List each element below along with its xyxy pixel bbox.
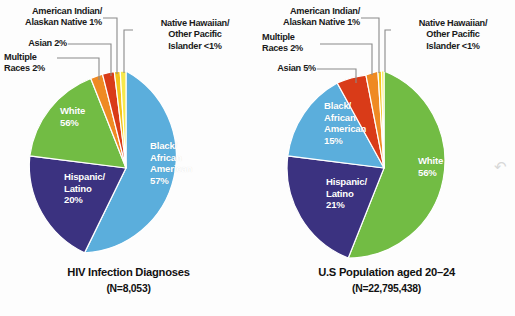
- callout-line-2: Races 2%: [262, 43, 320, 54]
- callout-american-indian-alaskan-native: American Indian/ Alaskan Native 1%: [0, 6, 102, 29]
- wedge-label-hispanic-latino: Hispanic/ Latino 20%: [64, 171, 105, 206]
- chart-title-us-population: U.S Population aged 20–24: [258, 266, 515, 278]
- callout-line-1: Asian 2%: [0, 38, 67, 49]
- callout-line-1: American Indian/: [0, 6, 102, 17]
- wedge-label-black-african-american: Black/ African American 15%: [324, 100, 366, 146]
- callout-line-1: Asian 5%: [258, 63, 316, 74]
- scan-artifact-mark: ↶: [494, 158, 507, 176]
- callout-line-1: Native Hawaiian/: [394, 18, 512, 29]
- chart-subtitle-us-population: (N=22,795,438): [258, 283, 515, 294]
- wedge-label-white: White 56%: [418, 155, 443, 178]
- callout-american-indian-alaskan-native: American Indian/ Alaskan Native 1%: [258, 6, 360, 29]
- callout-native-hawaiian-other-pacific-islander: Native Hawaiian/ Other Pacific Islander …: [394, 18, 512, 52]
- callout-line-2: Races 2%: [4, 63, 60, 74]
- callout-multiple-races: Multiple Races 2%: [4, 52, 60, 75]
- leader-line-american-indian: [361, 18, 379, 73]
- leader-line-multiple-races: [320, 44, 372, 75]
- chart-title-hiv: HIV Infection Diagnoses: [0, 266, 257, 278]
- callout-asian: Asian 2%: [0, 38, 67, 49]
- chart-panel-hiv-infection-diagnoses: American Indian/ Alaskan Native 1% Asian…: [0, 0, 257, 316]
- leader-line-american-indian: [103, 18, 117, 74]
- leader-line-multiple-races: [57, 58, 99, 80]
- leader-line-asian: [68, 44, 111, 76]
- wedge-label-black-african-american: Black/ African American 57%: [150, 140, 192, 186]
- chart-panel-us-population-aged-20-24: American Indian/ Alaskan Native 1% Multi…: [258, 0, 515, 316]
- callout-line-1: American Indian/: [258, 6, 360, 17]
- callout-line-2: Other Pacific: [394, 29, 512, 40]
- callout-native-hawaiian-other-pacific-islander: Native Hawaiian/ Other Pacific Islander …: [136, 18, 254, 52]
- callout-multiple-races: Multiple Races 2%: [262, 32, 320, 55]
- wedge-label-white: White 56%: [60, 105, 85, 128]
- callout-asian: Asian 5%: [258, 63, 316, 74]
- pie-chart-figure: American Indian/ Alaskan Native 1% Asian…: [0, 0, 515, 316]
- chart-subtitle-hiv: (N=8,053): [0, 283, 257, 294]
- callout-line-2: Alaskan Native 1%: [0, 17, 102, 28]
- leader-line-native-hawaiian: [124, 30, 133, 73]
- callout-line-1: Multiple: [262, 32, 320, 43]
- callout-line-1: Multiple: [4, 52, 60, 63]
- callout-line-2: Alaskan Native 1%: [258, 17, 360, 28]
- wedge-label-hispanic-latino: Hispanic/ Latino 21%: [326, 176, 367, 211]
- callout-line-1: Native Hawaiian/: [136, 18, 254, 29]
- callout-line-2: Other Pacific: [136, 29, 254, 40]
- callout-line-3: Islander <1%: [136, 41, 254, 52]
- callout-line-3: Islander <1%: [394, 41, 512, 52]
- leader-line-native-hawaiian: [385, 30, 391, 72]
